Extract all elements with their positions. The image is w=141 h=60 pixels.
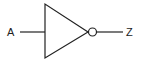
output-label-z: Z [126, 26, 133, 38]
inverter-triangle-icon [45, 4, 88, 58]
input-label-a: A [7, 26, 15, 38]
not-gate-diagram: A Z [0, 0, 141, 60]
inversion-bubble-icon [89, 28, 97, 36]
